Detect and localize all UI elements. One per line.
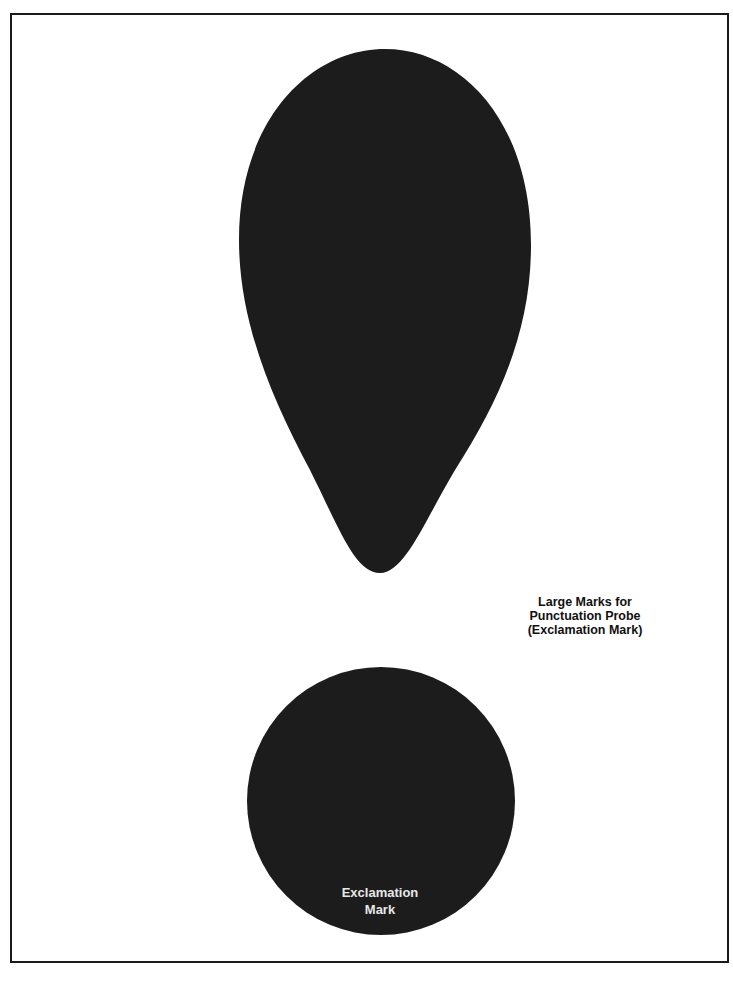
caption-line-2: Mark bbox=[300, 901, 460, 918]
title-line-3: (Exclamation Mark) bbox=[520, 623, 650, 637]
caption-line-1: Exclamation bbox=[300, 884, 460, 901]
exclamation-drop-shape bbox=[239, 49, 531, 573]
title-line-1: Large Marks for bbox=[520, 595, 650, 609]
mark-caption: Exclamation Mark bbox=[300, 884, 460, 918]
exclamation-mark-graphic bbox=[0, 0, 733, 981]
title-line-2: Punctuation Probe bbox=[520, 609, 650, 623]
document-title: Large Marks for Punctuation Probe (Excla… bbox=[520, 595, 650, 637]
